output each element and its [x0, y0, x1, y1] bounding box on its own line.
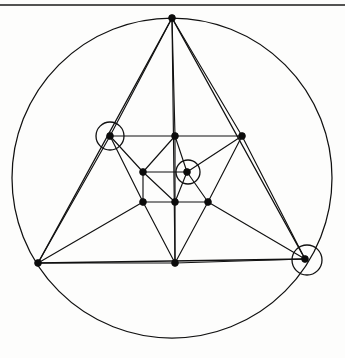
- vertex-dot-J: [172, 199, 179, 206]
- vertex-dot-B: [35, 260, 42, 267]
- edge-F-K: [208, 136, 242, 202]
- edge-A-B: [38, 18, 172, 263]
- edge-layer: [38, 18, 305, 263]
- vertex-dot-C: [302, 256, 309, 263]
- edge-A-D: [110, 18, 172, 136]
- edge-A-F: [172, 18, 242, 136]
- vertex-dot-D: [107, 133, 114, 140]
- vertex-dot-L: [172, 260, 179, 267]
- edge-D-G: [110, 136, 143, 172]
- edge-I-L: [143, 202, 175, 263]
- vertex-dot-K: [205, 199, 212, 206]
- vertex-dot-A: [169, 15, 176, 22]
- vertex-dot-E: [172, 133, 179, 140]
- geometry-diagram: [0, 0, 345, 358]
- circumscribed-circle: [12, 18, 332, 338]
- edge-E-G: [143, 136, 175, 172]
- edge-F-H: [187, 136, 242, 172]
- edge-K-L: [175, 202, 208, 263]
- edge-H-K: [187, 172, 208, 202]
- vertex-dot-I: [140, 199, 147, 206]
- figure-canvas: [0, 0, 345, 358]
- circumcircle-layer: [12, 18, 332, 338]
- vertex-dot-G: [140, 169, 147, 176]
- vertex-dot-F: [239, 133, 246, 140]
- edge-B-I: [38, 202, 143, 263]
- edge-B-D: [38, 136, 110, 263]
- edge-D-I: [110, 136, 143, 202]
- edge-G-J: [143, 172, 175, 202]
- vertex-dot-H: [184, 169, 191, 176]
